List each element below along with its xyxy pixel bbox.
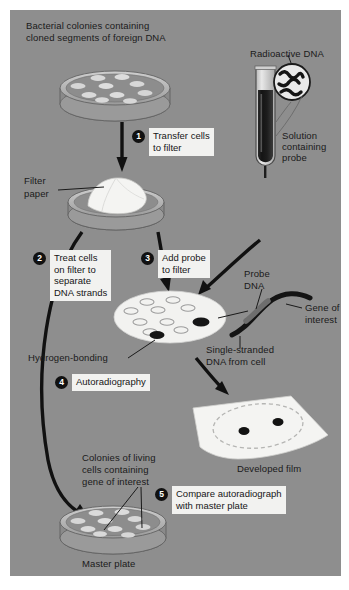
label-gene-of-interest-line1: Gene of [305, 302, 340, 314]
step-number-2: 2 [33, 252, 46, 265]
leader-hydrogen-bonding [128, 340, 155, 358]
label-probe-dna-line2: DNA [244, 280, 264, 292]
film-spot-left [239, 427, 250, 435]
step-callout-1[interactable]: Transfer cells to filter [149, 128, 214, 156]
figure-page: Bacterial colonies containing cloned seg… [0, 0, 349, 590]
test-tube [255, 66, 276, 178]
step-callout-2[interactable]: Treat cells on filter to separate DNA st… [50, 250, 111, 301]
filter-paper-dish [68, 178, 164, 230]
label-solution-line2: containing [282, 141, 326, 153]
label-solution-line3: probe [282, 152, 307, 164]
label-solution-line1: Solution [282, 130, 317, 142]
radioactive-dna-inset [274, 55, 310, 136]
film-spot-right [273, 418, 284, 426]
probe-bound-colony-left [150, 331, 165, 339]
step-number-4: 4 [55, 376, 68, 389]
step-callout-5[interactable]: Compare autoradiograph with master plate [172, 486, 286, 514]
label-colonies-living-line2: cells containing [82, 464, 149, 476]
developed-film [193, 396, 328, 459]
step-callout-3[interactable]: Add probe to filter [158, 250, 210, 278]
label-single-stranded-line1: Single-stranded [206, 344, 274, 356]
hybridized-filter [114, 291, 226, 343]
diagram-panel: Bacterial colonies containing cloned seg… [10, 10, 341, 576]
label-master-plate: Master plate [82, 558, 135, 570]
dna-strand-gene-of-interest [232, 289, 310, 348]
label-radioactive-dna: Radioactive DNA [250, 48, 324, 60]
master-plate [60, 487, 166, 554]
label-single-stranded-line2: DNA from cell [206, 356, 265, 368]
step-number-5: 5 [155, 488, 168, 501]
label-colonies-living-line3: gene of interest [82, 476, 149, 488]
label-developed-film: Developed film [237, 463, 301, 475]
step-callout-4[interactable]: Autoradiography [72, 374, 150, 391]
label-filter-paper-line2: paper [24, 188, 49, 200]
label-gene-of-interest-line2: interest [305, 314, 337, 326]
probe-bound-colony-right [193, 317, 210, 326]
label-hydrogen-bonding: Hydrogen-bonding [28, 352, 108, 364]
step-number-1: 1 [132, 130, 145, 143]
label-colonies-living-line1: Colonies of living [82, 452, 156, 464]
label-filter-paper-line1: Filter [24, 175, 46, 187]
arrow-step-1 [117, 122, 128, 172]
step-number-3: 3 [141, 252, 154, 265]
petri-dish-top [60, 71, 170, 121]
label-probe-dna-line1: Probe [244, 268, 270, 280]
